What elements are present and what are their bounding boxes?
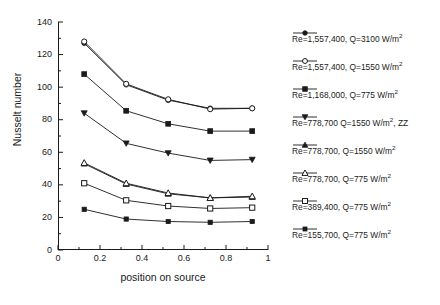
legend-entry: Re=1,557,400, Q=3100 W/m2 xyxy=(292,24,438,52)
y-tick-label: 120 xyxy=(37,50,52,59)
x-tick-label: 0.2 xyxy=(80,254,120,263)
y-tick-label: 60 xyxy=(42,148,52,157)
legend-marker-sample xyxy=(292,80,322,90)
y-tick-label: 20 xyxy=(42,213,52,222)
data-point xyxy=(81,160,87,166)
data-point xyxy=(82,181,87,186)
x-tick-label: 0.4 xyxy=(122,254,162,263)
x-axis-title: position on source xyxy=(58,272,268,283)
legend-label: Re=1,557,400, Q=3100 W/m2 xyxy=(292,34,403,44)
x-tick-label: 1 xyxy=(248,254,288,263)
legend-entry: Re=778,700 Q=1550 W/m2, ZZ xyxy=(292,108,438,136)
legend-marker-sample xyxy=(292,24,322,34)
legend-marker-sample xyxy=(292,136,322,146)
data-point xyxy=(208,107,213,112)
data-point xyxy=(208,220,212,224)
y-tick-label: 40 xyxy=(42,180,52,189)
chart-legend: Re=1,557,400, Q=3100 W/m2Re=1,557,400, Q… xyxy=(292,24,438,252)
legend-entry: Re=1,168,000, Q=775 W/m2 xyxy=(292,80,438,108)
legend-entry: Re=1,557,400, Q=1550 W/m2 xyxy=(292,52,438,80)
legend-label: Re=155,700, Q=775 W/m2 xyxy=(292,230,391,240)
x-axis-tick-labels: 00.20.40.60.81 xyxy=(0,254,300,268)
data-point xyxy=(166,219,170,223)
legend-label: Re=389,400, Q=775 W/m2 xyxy=(292,202,391,212)
data-point xyxy=(124,108,129,113)
data-point xyxy=(166,97,171,102)
x-tick-label: 0.8 xyxy=(206,254,246,263)
data-series xyxy=(82,207,254,224)
data-point xyxy=(250,129,255,134)
data-point xyxy=(208,206,213,211)
data-series xyxy=(82,39,255,112)
legend-entry: Re=778,700, Q=775 W/m2 xyxy=(292,164,438,192)
data-point xyxy=(82,72,87,77)
legend-entry: Re=389,400, Q=775 W/m2 xyxy=(292,192,438,220)
legend-label: Re=1,168,000, Q=775 W/m2 xyxy=(292,90,398,100)
data-point xyxy=(250,106,255,111)
plot-series-layer xyxy=(59,22,269,250)
x-tick-label: 0 xyxy=(38,254,78,263)
legend-label: Re=778,700, Q=775 W/m2 xyxy=(292,174,391,184)
legend-marker-sample xyxy=(292,192,322,202)
y-axis-title: Nusselt number xyxy=(12,50,23,170)
legend-label: Re=778,700, Q=1550 W/m2 xyxy=(292,146,396,156)
data-series xyxy=(81,160,255,201)
y-axis-tick-labels: 020406080100120140 xyxy=(0,0,52,250)
legend-label: Re=778,700 Q=1550 W/m2, ZZ xyxy=(292,118,408,128)
data-point xyxy=(124,81,129,86)
data-point xyxy=(166,121,171,126)
y-tick-label: 100 xyxy=(37,83,52,92)
data-point xyxy=(250,219,254,223)
data-point xyxy=(124,217,128,221)
legend-entry: Re=778,700, Q=1550 W/m2 xyxy=(292,136,438,164)
data-point xyxy=(208,129,213,134)
data-point xyxy=(82,207,86,211)
data-series xyxy=(81,111,255,164)
y-tick-label: 80 xyxy=(42,115,52,124)
data-point xyxy=(166,203,171,208)
data-point xyxy=(124,198,129,203)
legend-marker-sample xyxy=(292,108,322,118)
legend-marker-sample xyxy=(292,164,322,174)
legend-label: Re=1,557,400, Q=1550 W/m2 xyxy=(292,62,403,72)
data-point xyxy=(250,205,255,210)
x-tick-label: 0.6 xyxy=(164,254,204,263)
data-point xyxy=(82,39,87,44)
legend-marker-sample xyxy=(292,220,322,230)
legend-marker-sample xyxy=(292,52,322,62)
legend-entry: Re=155,700, Q=775 W/m2 xyxy=(292,220,438,248)
data-point xyxy=(81,111,87,116)
y-tick-label: 140 xyxy=(37,18,52,27)
chart-figure: 020406080100120140 00.20.40.60.81 Nussel… xyxy=(0,0,440,305)
plot-area xyxy=(58,22,268,250)
